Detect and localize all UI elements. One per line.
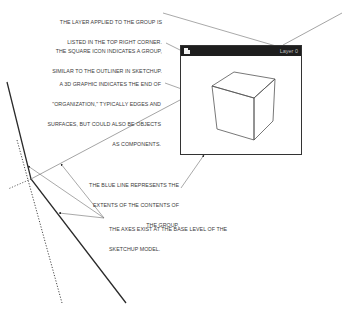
note-line: THE AXES EXIST AT THE BASE LEVEL OF THE	[109, 226, 227, 233]
leader-blue-line	[181, 155, 204, 188]
group-window[interactable]: Layer 0	[180, 45, 302, 155]
note-line: A 3D GRAPHIC INDICATES THE END OF	[30, 81, 161, 88]
note-line: AS COMPONENTS.	[30, 141, 161, 148]
graphic-note: A 3D GRAPHIC INDICATES THE END OF "ORGAN…	[30, 68, 161, 154]
note-line: THE SQUARE ICON INDICATES A GROUP,	[30, 48, 162, 55]
note-line: SKETCHUP MODEL.	[109, 246, 227, 253]
note-line: THE BLUE LINE REPRESENTS THE	[70, 182, 179, 189]
note-line: "ORGANIZATION," TYPICALLY EDGES AND	[30, 101, 161, 108]
note-line: SURFACES, BUT COULD ALSO BE OBJECTS	[30, 121, 161, 128]
dotted-axis-red	[8, 179, 31, 189]
extent-line-lower	[60, 154, 186, 164]
axes-note: THE AXES EXIST AT THE BASE LEVEL OF THE …	[109, 213, 227, 259]
dotted-axis-green	[17, 140, 62, 303]
leader-layer	[163, 13, 276, 46]
cube-graphic	[181, 46, 301, 154]
extent-line-top	[283, 13, 342, 45]
note-line: THE LAYER APPLIED TO THE GROUP IS	[40, 19, 162, 26]
note-line: EXTENTS OF THE CONTENTS OF	[70, 202, 179, 209]
